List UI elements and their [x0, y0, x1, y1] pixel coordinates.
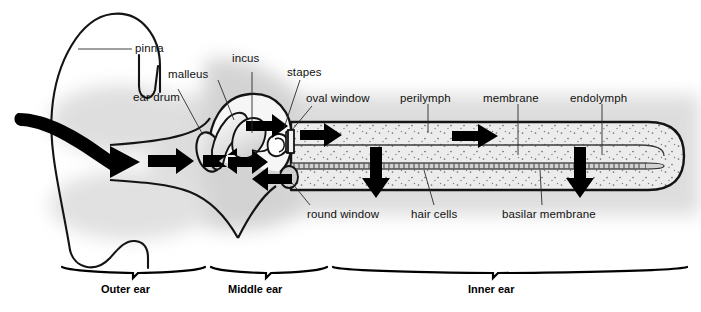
diagram-canvas [0, 0, 701, 312]
label-ear-drum: ear drum [133, 91, 180, 103]
label-incus: incus [232, 52, 259, 64]
label-basilar-membrane: basilar membrane [502, 208, 596, 220]
bracket-outer-ear [62, 267, 205, 278]
stapes-bone [267, 134, 288, 156]
label-endolymph: endolymph [570, 92, 627, 104]
label-membrane: membrane [483, 92, 539, 104]
label-hair-cells: hair cells [411, 208, 457, 220]
basilar-membrane [291, 163, 664, 169]
bracket-inner-ear [333, 267, 687, 278]
label-round-window: round window [307, 208, 379, 220]
label-oval-window: oval window [306, 92, 370, 104]
region-label-middle-ear: Middle ear [228, 283, 282, 295]
label-malleus: malleus [168, 68, 208, 80]
label-stapes: stapes [287, 66, 321, 78]
oval-window [288, 130, 294, 153]
bracket-middle-ear [211, 267, 327, 278]
region-brackets [62, 267, 687, 278]
ear-anatomy-diagram: pinna ear drum malleus incus stapes oval… [0, 0, 701, 312]
region-label-inner-ear: Inner ear [468, 283, 514, 295]
label-pinna: pinna [135, 42, 164, 54]
label-perilymph: perilymph [400, 92, 451, 104]
region-label-outer-ear: Outer ear [101, 283, 150, 295]
